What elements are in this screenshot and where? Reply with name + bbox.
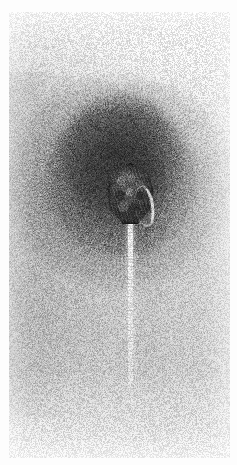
phage-head-capsid [108,163,153,224]
micrograph-image [9,12,230,458]
film-right-fade [150,12,230,458]
electron-micrograph-figure [0,0,237,465]
